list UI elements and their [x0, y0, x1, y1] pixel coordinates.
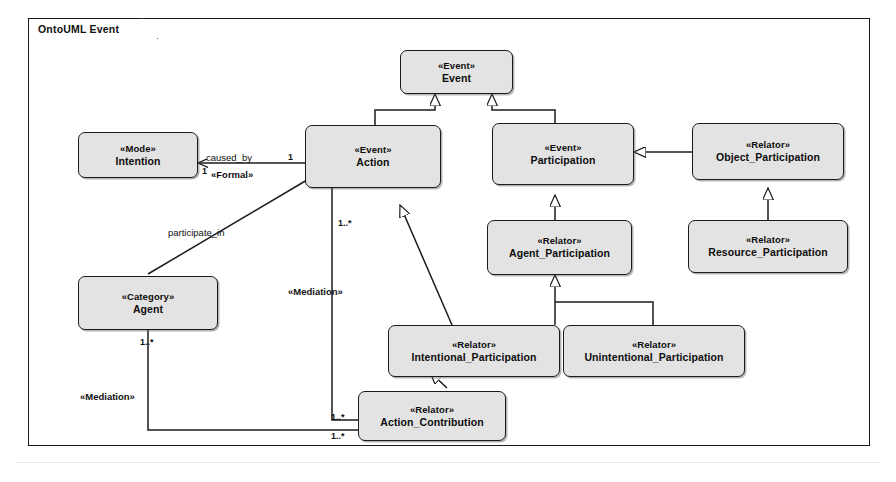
class-stereotype: «Relator»: [452, 339, 496, 351]
class-name: Action: [356, 156, 389, 169]
class-name: Event: [442, 72, 471, 85]
multiplicity-action-caused-by-end: 1: [288, 152, 293, 163]
class-name: Agent: [133, 303, 163, 316]
class-action-contribution[interactable]: «Relator» Action_Contribution: [358, 391, 506, 441]
class-stereotype: «Relator»: [746, 234, 790, 246]
multiplicity-agent-mediation: 1..*: [140, 337, 154, 348]
class-stereotype: «Relator»: [746, 139, 790, 151]
class-name: Object_Participation: [716, 151, 820, 164]
class-name: Agent_Participation: [509, 247, 610, 260]
class-event[interactable]: «Event» Event: [400, 50, 513, 94]
class-name: Participation: [531, 154, 596, 167]
label-mediation-agent: «Mediation»: [80, 391, 135, 402]
class-name: Intentional_Participation: [411, 351, 536, 364]
class-stereotype: «Mode»: [120, 143, 156, 155]
class-name: Resource_Participation: [708, 246, 828, 259]
class-name: Unintentional_Participation: [584, 351, 723, 364]
label-participate-in: participate_in: [168, 227, 225, 238]
label-caused-by: caused_by: [206, 152, 252, 163]
class-stereotype: «Relator»: [410, 404, 454, 416]
class-intention[interactable]: «Mode» Intention: [78, 132, 198, 178]
class-action[interactable]: «Event» Action: [305, 125, 441, 188]
multiplicity-contribution-top: 1..*: [331, 412, 345, 423]
class-stereotype: «Event»: [544, 142, 581, 154]
class-stereotype: «Relator»: [632, 339, 676, 351]
scan-artifact: [16, 462, 880, 463]
class-stereotype: «Relator»: [537, 235, 581, 247]
class-unintentional-participation[interactable]: «Relator» Unintentional_Participation: [563, 325, 745, 377]
class-agent-participation[interactable]: «Relator» Agent_Participation: [487, 220, 632, 275]
multiplicity-intention-end: 1: [202, 166, 207, 177]
class-intentional-participation[interactable]: «Relator» Intentional_Participation: [388, 325, 560, 377]
class-name: Action_Contribution: [380, 416, 483, 429]
diagram-canvas: OntoUML Event: [0, 0, 896, 482]
class-resource-participation[interactable]: «Relator» Resource_Participation: [688, 220, 848, 273]
class-agent[interactable]: «Category» Agent: [78, 276, 218, 330]
class-object-participation[interactable]: «Relator» Object_Participation: [692, 123, 844, 180]
class-participation[interactable]: «Event» Participation: [492, 123, 634, 185]
multiplicity-action-mediation: 1..*: [338, 218, 352, 229]
multiplicity-contribution-bottom: 1..*: [331, 431, 345, 442]
class-stereotype: «Category»: [122, 291, 175, 303]
label-mediation-action: «Mediation»: [288, 286, 343, 297]
class-stereotype: «Event»: [438, 60, 475, 72]
label-formal-stereotype: «Formal»: [211, 169, 253, 180]
class-name: Intention: [115, 155, 160, 168]
class-stereotype: «Event»: [354, 144, 391, 156]
